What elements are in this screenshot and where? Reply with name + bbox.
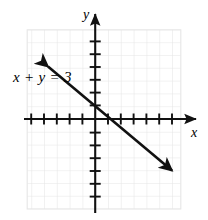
y-axis-label: y	[83, 8, 89, 22]
coordinate-plane	[0, 0, 208, 220]
graph-figure: x + y = 3 x y	[0, 0, 208, 220]
equation-annotation: x + y = 3	[13, 70, 72, 85]
x-axis-label: x	[191, 126, 197, 140]
